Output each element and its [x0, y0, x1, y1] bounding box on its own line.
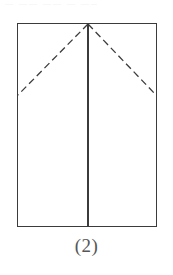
- paper-outline-rectangle: [18, 24, 157, 227]
- figure-caption: (2): [0, 234, 173, 258]
- figure-stage: — —— —— — —— (2): [0, 0, 173, 275]
